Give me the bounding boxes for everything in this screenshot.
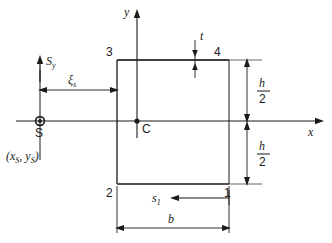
height-upper-dimension-group: h 2 xyxy=(244,58,270,123)
height-lower-arrowhead-top xyxy=(244,121,250,130)
arc-length-arrowhead xyxy=(170,195,179,201)
shear-force-arrowhead xyxy=(37,55,43,64)
node-label-2: 2 xyxy=(106,186,113,200)
cross-section-figure: C S (xS, yS) Sy xyxy=(0,0,332,243)
axis-group xyxy=(16,9,324,138)
y-axis-label: y xyxy=(123,5,130,19)
node-labels-group: 3 4 2 1 xyxy=(106,45,231,200)
shear-force-arrow-group: Sy xyxy=(37,54,56,82)
height-upper-denominator: 2 xyxy=(259,92,266,106)
width-arrowhead-left xyxy=(115,225,124,231)
thickness-label: t xyxy=(200,29,204,43)
x-axis-label: x xyxy=(307,125,314,139)
thickness-arrowhead-bottom xyxy=(192,63,198,70)
height-upper-numerator: h xyxy=(259,76,265,90)
y-axis-arrowhead xyxy=(134,9,140,18)
shear-force-label: Sy xyxy=(46,54,56,70)
shear-center-label: S xyxy=(35,126,43,140)
x-axis-arrowhead xyxy=(315,118,324,124)
node-label-1: 1 xyxy=(224,186,231,200)
thickness-dimension-group: t xyxy=(192,29,204,78)
centroid-label: C xyxy=(142,122,151,136)
centroid-dot xyxy=(134,118,139,123)
height-lower-denominator: 2 xyxy=(259,155,266,169)
xi-dimension-label: ξs xyxy=(68,73,76,89)
diagram-canvas: C S (xS, yS) Sy xyxy=(0,0,332,243)
arc-length-arrow-group: s1 xyxy=(152,190,229,207)
arc-length-label: s1 xyxy=(152,191,161,207)
width-arrowhead-right xyxy=(222,225,231,231)
height-lower-dimension-group: h 2 xyxy=(244,121,270,186)
xi-arrowhead-left xyxy=(38,87,47,93)
height-lower-numerator: h xyxy=(259,139,265,153)
thickness-arrowhead-top xyxy=(192,50,198,57)
shear-center-group: S (xS, yS) xyxy=(6,70,44,165)
axis-labels-group: x y xyxy=(123,5,314,139)
xi-dimension-group: ξs xyxy=(38,73,119,93)
height-upper-arrowhead-top xyxy=(244,58,250,67)
shear-center-dot xyxy=(38,119,42,123)
height-lower-arrowhead-bottom xyxy=(244,177,250,186)
node-label-3: 3 xyxy=(106,45,113,59)
node-label-4: 4 xyxy=(214,45,221,59)
width-dimension-group: b xyxy=(115,186,231,233)
shear-center-coordinates: (xS, yS) xyxy=(6,149,39,165)
width-label: b xyxy=(168,212,174,226)
